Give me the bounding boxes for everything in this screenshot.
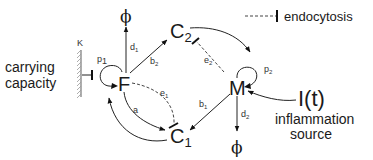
edge-F-to-c2 [130, 40, 167, 73]
node-M: M [229, 77, 246, 99]
arrowhead-icon [111, 83, 118, 89]
param-K: K [77, 38, 83, 48]
param-a: a [133, 105, 138, 115]
node-phi-bottom: ϕ [231, 137, 243, 157]
legend: endocytosis [245, 9, 353, 24]
param-d2: d2 [241, 109, 250, 120]
param-e2: e2 [204, 55, 213, 66]
inflammation-label-1: inflammation [275, 111, 354, 127]
node-c1: C1 [170, 125, 192, 150]
param-p2: p2 [264, 64, 273, 75]
node-phi-top: ϕ [120, 6, 132, 26]
param-d1: d1 [130, 42, 139, 53]
node-c2: C2 [170, 20, 192, 45]
edge-M-endocytosis-c2 [197, 42, 224, 72]
edge-F-to-c1 [124, 92, 165, 130]
edge-M-to-c1 [190, 94, 230, 130]
inflammation-label-2: source [290, 126, 332, 142]
param-e1: e1 [160, 88, 169, 99]
param-b1: b1 [199, 99, 208, 110]
edge-K-inhibits-F [82, 70, 92, 80]
carrying-capacity-label-2: capacity [5, 75, 56, 91]
edge-input-to-M [248, 91, 296, 100]
carrying-capacity-label-1: carrying [5, 59, 55, 75]
carrying-capacity-wall [77, 50, 81, 98]
param-b2: b2 [150, 56, 159, 67]
param-p1: p1 [97, 54, 107, 66]
legend-label-endocytosis: endocytosis [284, 9, 353, 24]
edge-c2-to-M [190, 28, 250, 52]
edge-F-endocytosis-c1 [132, 83, 174, 124]
cell-interaction-diagram: K carrying capacity p1 F ϕ d1 b2 C2 e2 M… [0, 0, 373, 160]
node-input-It: I(t) [298, 86, 325, 111]
node-F: F [118, 73, 130, 95]
